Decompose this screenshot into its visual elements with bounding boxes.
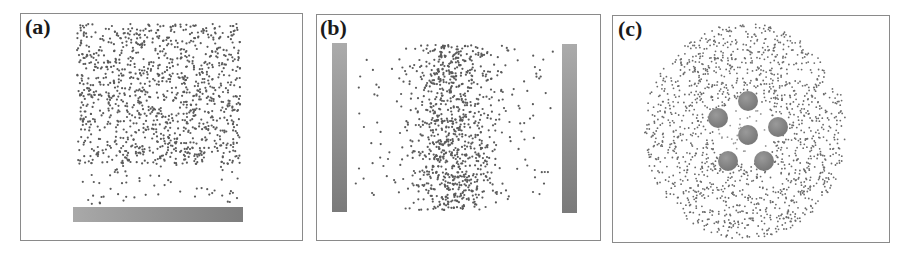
particle (748, 218, 750, 220)
particle (706, 107, 708, 109)
particle (813, 86, 815, 88)
particle (705, 224, 707, 226)
particle (720, 51, 722, 53)
particle (688, 163, 690, 165)
particle (683, 193, 685, 195)
particle (651, 170, 653, 172)
particle (694, 167, 696, 169)
particle (771, 151, 773, 153)
particle (819, 137, 821, 139)
particle (691, 102, 693, 104)
particle (838, 160, 840, 162)
particle (750, 54, 752, 56)
particle (680, 75, 682, 77)
particle (687, 179, 689, 181)
particle (823, 170, 825, 172)
particle (785, 139, 787, 141)
particle (687, 199, 689, 201)
particle (686, 169, 688, 171)
particle (841, 113, 843, 115)
particle (656, 86, 658, 88)
sphere-electrode-1 (738, 91, 758, 111)
particle (759, 74, 761, 76)
particle (716, 198, 718, 200)
particle (709, 211, 711, 213)
particle (654, 165, 656, 167)
particle (794, 80, 796, 82)
particle (794, 94, 796, 96)
particle (837, 138, 839, 140)
particle (715, 72, 717, 74)
particle (722, 57, 724, 59)
particle (829, 187, 831, 189)
particle (703, 92, 705, 94)
particle (810, 205, 812, 207)
particle (780, 106, 782, 108)
particle (746, 212, 748, 214)
particle (673, 131, 675, 133)
particle (831, 113, 833, 115)
particle (808, 113, 810, 115)
particle (741, 164, 743, 166)
particle (711, 30, 713, 32)
particle (756, 176, 758, 178)
particle (716, 84, 718, 86)
particle (755, 207, 757, 209)
particle (703, 174, 705, 176)
particle (841, 100, 843, 102)
particle (795, 179, 797, 181)
particle (730, 68, 732, 70)
particle (788, 46, 790, 48)
particle (683, 73, 685, 75)
particle (808, 198, 810, 200)
particle (749, 236, 751, 238)
particle (764, 223, 766, 225)
particle (703, 229, 705, 231)
particle (735, 58, 737, 60)
particle (730, 44, 732, 46)
particle (760, 113, 762, 115)
particle (778, 228, 780, 230)
particle (712, 149, 714, 151)
particle (725, 96, 727, 98)
particle (795, 169, 797, 171)
particle (768, 227, 770, 229)
particle (747, 69, 749, 71)
particle (686, 139, 688, 141)
particle (819, 61, 821, 63)
particle (827, 117, 829, 119)
particle (789, 103, 791, 105)
particle (663, 136, 665, 138)
particle (780, 189, 782, 191)
particle (750, 80, 752, 82)
particle (763, 233, 765, 235)
particle (821, 194, 823, 196)
particle (841, 125, 843, 127)
particle (811, 149, 813, 151)
particle (833, 137, 835, 139)
particle (711, 61, 713, 63)
particle (738, 170, 740, 172)
particle (749, 82, 751, 84)
particle (725, 84, 727, 86)
particle (672, 157, 674, 159)
particle (783, 61, 785, 63)
particle (711, 85, 713, 87)
particle (763, 42, 765, 44)
particle (711, 214, 713, 216)
particle (749, 116, 751, 118)
particle (703, 68, 705, 70)
particle (779, 85, 781, 87)
particle (774, 38, 776, 40)
particle (719, 90, 721, 92)
particle (835, 178, 837, 180)
particle (768, 90, 770, 92)
particle (800, 110, 802, 112)
particle (677, 85, 679, 87)
particle (697, 94, 699, 96)
particle (817, 101, 819, 103)
particle (660, 104, 662, 106)
particle (689, 61, 691, 63)
particle (763, 70, 765, 72)
particle (804, 115, 806, 117)
